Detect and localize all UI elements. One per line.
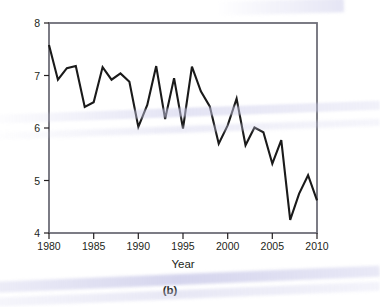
y-tick-label: 8 <box>34 17 40 29</box>
y-tick-label: 5 <box>34 175 40 187</box>
x-tick-label: 2000 <box>216 240 240 252</box>
x-axis-label: Year <box>49 258 317 270</box>
y-tick-label: 4 <box>34 227 40 239</box>
x-tick-label: 1995 <box>171 240 195 252</box>
y-tick-label: 7 <box>34 70 40 82</box>
x-tick-label: 1990 <box>127 240 151 252</box>
x-tick-label: 1985 <box>82 240 106 252</box>
y-tick-label: 6 <box>34 122 40 134</box>
figure-caption: (b) <box>0 284 340 296</box>
x-tick-label: 1980 <box>37 240 61 252</box>
x-tick-label: 2010 <box>305 240 329 252</box>
y-tick-labels: 8 7 6 5 4 <box>34 17 40 239</box>
x-tick-label: 2005 <box>261 240 285 252</box>
data-series-line <box>49 45 317 220</box>
x-tick-labels: 1980 1985 1990 1995 2000 2005 2010 <box>37 240 329 252</box>
